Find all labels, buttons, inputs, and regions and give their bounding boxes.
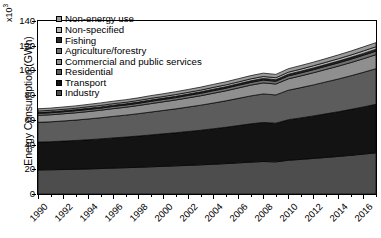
legend-item-label: Fishing xyxy=(65,36,96,46)
x-axis-tick-label: 2006 xyxy=(227,201,250,224)
legend-item-label: Industry xyxy=(65,88,99,98)
legend-item: Transport xyxy=(56,77,202,87)
legend-item: Commercial and public services xyxy=(56,56,202,66)
x-axis-tick-mark xyxy=(301,195,302,197)
x-axis-tick-mark xyxy=(226,195,227,197)
x-axis-tick-label: 1994 xyxy=(77,201,100,224)
x-axis-tick-label: 1996 xyxy=(102,201,125,224)
legend-swatch-icon xyxy=(56,48,62,54)
x-axis-tick-mark xyxy=(63,195,64,199)
x-axis-tick-mark xyxy=(351,195,352,197)
x-axis-tick-label: 2016 xyxy=(353,201,376,224)
x-axis-tick-mark xyxy=(88,195,89,199)
x-axis-tick-mark xyxy=(263,195,264,199)
legend-swatch-icon xyxy=(56,27,62,33)
legend-item: Fishing xyxy=(56,35,202,45)
y-axis-tick-mark xyxy=(32,145,36,146)
legend-item: Non-energy use xyxy=(56,14,202,24)
legend-swatch-icon xyxy=(56,69,62,75)
y-axis-tick-labels: 020406080100120140 xyxy=(0,0,35,238)
x-axis-tick-mark xyxy=(376,195,377,197)
x-axis-tick-mark xyxy=(238,195,239,199)
y-axis-tick-mark xyxy=(32,21,36,22)
x-axis-tick-label: 2014 xyxy=(327,201,350,224)
x-axis-tick-label: 1992 xyxy=(52,201,75,224)
x-axis-tick-mark xyxy=(326,195,327,197)
x-axis-tick-mark xyxy=(363,195,364,199)
x-axis-tick-mark xyxy=(176,195,177,197)
legend-swatch-icon xyxy=(56,37,62,43)
y-axis-tick-mark xyxy=(32,194,36,195)
legend-item-label: Agriculture/forestry xyxy=(65,46,146,56)
x-axis-tick-label: 2008 xyxy=(252,201,275,224)
legend-swatch-icon xyxy=(56,90,62,96)
x-axis-tick-mark xyxy=(288,195,289,199)
x-axis-tick-mark xyxy=(338,195,339,199)
x-axis-tick-label: 2002 xyxy=(177,201,200,224)
legend-item: Agriculture/forestry xyxy=(56,46,202,56)
y-axis-tick-mark xyxy=(32,46,36,47)
chart-figure: x103 Energy Consumption (GWh) 0204060801… xyxy=(0,0,381,238)
x-axis-tick-mark xyxy=(126,195,127,197)
legend-item: Industry xyxy=(56,88,202,98)
x-axis-tick-mark xyxy=(38,195,39,199)
legend-item: Residential xyxy=(56,67,202,77)
legend-item-label: Commercial and public services xyxy=(65,57,202,67)
x-axis-tick-mark xyxy=(276,195,277,197)
x-axis-tick-label: 2004 xyxy=(202,201,225,224)
x-axis-tick-mark xyxy=(188,195,189,199)
x-axis-tick-mark xyxy=(138,195,139,199)
legend-item-label: Non-energy use xyxy=(65,14,134,24)
legend-swatch-icon xyxy=(56,59,62,65)
legend-item-label: Non-specified xyxy=(65,25,124,35)
y-axis-tick-mark xyxy=(32,120,36,121)
y-axis-tick-mark xyxy=(32,169,36,170)
chart-legend: Non-energy useNon-specifiedFishingAgricu… xyxy=(56,14,202,99)
x-axis-tick-label: 2012 xyxy=(302,201,325,224)
legend-item: Non-specified xyxy=(56,25,202,35)
x-axis-tick-mark xyxy=(251,195,252,197)
legend-item-label: Residential xyxy=(65,67,113,77)
y-axis-tick-mark xyxy=(32,70,36,71)
x-axis-tick-mark xyxy=(101,195,102,197)
x-axis-tick-mark xyxy=(51,195,52,197)
x-axis-tick-mark xyxy=(113,195,114,199)
legend-swatch-icon xyxy=(56,16,62,22)
x-axis-tick-mark xyxy=(201,195,202,197)
y-axis-tick-mark xyxy=(32,95,36,96)
legend-swatch-icon xyxy=(56,80,62,86)
x-axis-tick-label: 2010 xyxy=(277,201,300,224)
x-axis-tick-mark xyxy=(76,195,77,197)
x-axis-tick-label: 2000 xyxy=(152,201,175,224)
x-axis-tick-label: 1998 xyxy=(127,201,150,224)
x-axis-tick-mark xyxy=(313,195,314,199)
x-axis-tick-mark xyxy=(163,195,164,199)
legend-item-label: Transport xyxy=(65,78,106,88)
x-axis-tick-mark xyxy=(213,195,214,199)
x-axis-tick-mark xyxy=(151,195,152,197)
